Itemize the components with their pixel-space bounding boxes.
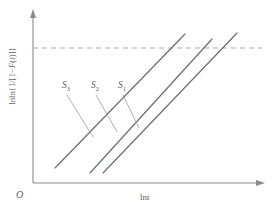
y-axis-label-part2: ( [7, 60, 17, 63]
y-axis-label-variable-t: t [7, 57, 17, 59]
leader-line-s2 [96, 95, 117, 132]
y-axis-label-part3: )]} [7, 47, 17, 57]
leader-line-s3 [67, 95, 93, 137]
x-axis-label-prefix: ln [140, 192, 147, 202]
y-axis-label-wrapper: lnln{1/[1−F(t)]} [5, 26, 19, 126]
series-label-s3-subscript: 3 [67, 85, 70, 92]
series-line-s1 [103, 33, 237, 173]
leader-line-s1 [123, 95, 139, 128]
up-arrow-icon [30, 9, 36, 18]
x-axis-label-variable: t [147, 192, 150, 202]
y-axis-label-variable-f: F [7, 63, 17, 68]
series-label-s2: S2 [91, 81, 99, 92]
series-label-s1: S1 [118, 81, 126, 92]
y-axis-label: lnln{1/[1−F(t)]} [8, 47, 17, 105]
series-line-s3 [55, 34, 185, 168]
series-label-s2-subscript: 2 [96, 85, 99, 92]
series-line-s2 [90, 39, 212, 173]
y-axis-label-part1: lnln{1/[1− [7, 68, 17, 105]
x-axis-label: lnt [140, 193, 150, 202]
weibull-probability-plot-figure: S3 S2 S1 O lnt lnln{1/[1−F(t)]} [0, 0, 278, 216]
series-label-s1-subscript: 1 [123, 85, 126, 92]
series-label-s3: S3 [62, 81, 70, 92]
origin-label: O [16, 190, 23, 200]
plot-canvas [0, 0, 278, 216]
right-arrow-icon [256, 180, 265, 186]
